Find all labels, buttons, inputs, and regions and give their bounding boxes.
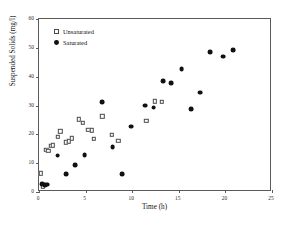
- data-point-unsaturated: [58, 129, 62, 133]
- y-tick-mark: [36, 77, 39, 78]
- y-tick-label: 10: [22, 159, 34, 165]
- x-tick-mark: [39, 190, 40, 193]
- data-point-unsaturated: [46, 148, 50, 152]
- data-point-saturated: [64, 172, 69, 177]
- y-tick-label: 60: [22, 15, 34, 21]
- data-point-unsaturated: [51, 143, 55, 147]
- data-point-saturated: [151, 105, 156, 110]
- data-point-unsaturated: [152, 99, 156, 103]
- data-point-saturated: [160, 79, 165, 84]
- data-point-saturated: [208, 50, 213, 55]
- x-tick-mark: [225, 190, 226, 193]
- data-point-unsaturated: [69, 136, 73, 140]
- data-point-saturated: [45, 182, 50, 187]
- y-axis-title: Suspended Solids (mg/l): [9, 0, 17, 116]
- data-point-unsaturated: [109, 133, 113, 137]
- x-tick-label: 5: [83, 195, 86, 201]
- x-tick-label: 15: [175, 195, 180, 201]
- y-tick-label: 0: [22, 188, 34, 194]
- y-tick-mark: [36, 106, 39, 107]
- data-point-saturated: [179, 66, 184, 71]
- x-tick-label: 20: [222, 195, 227, 201]
- data-point-unsaturated: [144, 119, 148, 123]
- legend-item-saturated: Saturated: [52, 37, 94, 48]
- legend-label-unsaturated: Unsaturated: [63, 28, 94, 35]
- data-point-saturated: [188, 107, 193, 112]
- data-point-saturated: [169, 81, 174, 86]
- data-point-unsaturated: [90, 128, 94, 132]
- data-point-saturated: [198, 90, 203, 95]
- data-point-saturated: [119, 172, 124, 177]
- y-tick-label: 50: [22, 44, 34, 50]
- x-tick-label: 0: [37, 195, 40, 201]
- x-tick-mark: [86, 190, 87, 193]
- y-tick-mark: [36, 163, 39, 164]
- y-tick-label: 20: [22, 130, 34, 136]
- x-tick-label: 10: [128, 195, 133, 201]
- x-tick-mark: [272, 190, 273, 193]
- data-point-saturated: [230, 48, 235, 53]
- y-tick-mark: [36, 192, 39, 193]
- data-point-unsaturated: [81, 121, 85, 125]
- legend-item-unsaturated: Unsaturated: [52, 26, 94, 37]
- data-point-saturated: [100, 100, 105, 105]
- data-point-unsaturated: [92, 137, 96, 141]
- legend-label-saturated: Saturated: [63, 39, 87, 46]
- y-tick-label: 40: [22, 73, 34, 79]
- data-point-saturated: [82, 153, 87, 158]
- y-tick-mark: [36, 48, 39, 49]
- data-point-saturated: [129, 124, 134, 129]
- data-point-saturated: [110, 144, 115, 149]
- x-axis-title: Time (h): [38, 203, 271, 211]
- filled-circle-icon: [52, 40, 61, 45]
- data-point-saturated: [55, 153, 60, 158]
- open-square-icon: [52, 29, 61, 33]
- data-point-saturated: [221, 54, 226, 59]
- x-tick-mark: [179, 190, 180, 193]
- data-point-saturated: [143, 103, 148, 108]
- data-point-saturated: [73, 163, 78, 168]
- y-tick-label: 30: [22, 102, 34, 108]
- chart-legend: Unsaturated Saturated: [52, 26, 94, 48]
- y-tick-mark: [36, 19, 39, 20]
- data-point-unsaturated: [116, 138, 120, 142]
- y-tick-mark: [36, 134, 39, 135]
- data-point-unsaturated: [55, 135, 59, 139]
- scatter-plot-figure: 0510152025 0102030405060 Time (h) Suspen…: [0, 0, 291, 226]
- data-point-unsaturated: [39, 171, 43, 175]
- data-point-unsaturated: [100, 114, 104, 118]
- x-tick-label: 25: [268, 195, 273, 201]
- data-point-unsaturated: [160, 99, 164, 103]
- x-tick-mark: [132, 190, 133, 193]
